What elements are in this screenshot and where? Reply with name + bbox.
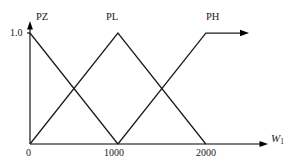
set-label-pl: PL — [106, 12, 118, 23]
y-axis — [27, 21, 33, 144]
x-axis — [30, 141, 268, 147]
curve-pl — [30, 33, 206, 144]
x-axis-name-subscript: 1 — [280, 137, 284, 146]
x-axis-name: W1 — [271, 133, 284, 144]
y-axis-tick-label-1: 1.0 — [10, 28, 23, 38]
x-axis-name-base: W — [271, 132, 280, 144]
chart-canvas — [0, 0, 296, 165]
x-axis-tick-label-1000: 1000 — [104, 148, 124, 158]
set-label-pz: PZ — [36, 12, 48, 23]
x-axis-tick-label-2000: 2000 — [196, 148, 216, 158]
set-label-ph: PH — [206, 12, 219, 23]
curve-ph — [118, 30, 249, 144]
x-axis-tick-label-0: 0 — [26, 148, 31, 158]
fuzzy-membership-chart: PZ PL PH 1.0 0 1000 2000 W1 — [0, 0, 296, 165]
